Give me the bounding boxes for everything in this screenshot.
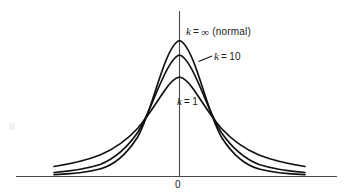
label-k-10-equals: =: [219, 51, 229, 62]
label-k-1-value: 1: [192, 96, 198, 107]
leader-line-k-10: [199, 56, 213, 62]
label-k-1-equals: =: [182, 96, 192, 107]
t-distribution-figure: k=∞ (normal) k=10 k=1 0: [0, 0, 354, 196]
infinity-icon: ∞: [201, 26, 209, 38]
label-k-infinity: k=∞ (normal): [186, 26, 251, 37]
label-k-10: k=10: [214, 51, 241, 62]
label-k-1: k=1: [177, 96, 198, 107]
x-axis-origin-label: 0: [175, 179, 181, 190]
label-k-10-value: 10: [229, 51, 241, 62]
label-k-infinity-equals: =: [191, 26, 201, 37]
label-k-infinity-note: (normal): [212, 26, 251, 37]
